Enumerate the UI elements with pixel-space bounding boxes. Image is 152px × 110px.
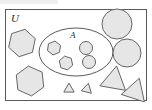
small-hexagon bbox=[48, 41, 61, 55]
scan-artifact bbox=[0, 0, 58, 4]
elements-inside-subset-a bbox=[48, 41, 96, 70]
large-triangle bbox=[100, 66, 126, 90]
small-circle bbox=[80, 42, 93, 55]
large-circle bbox=[113, 39, 141, 67]
large-hexagon bbox=[16, 66, 43, 96]
small-hexagon bbox=[59, 56, 72, 70]
tiny-triangle bbox=[81, 83, 91, 93]
elements-outside-subset-a bbox=[9, 9, 145, 102]
large-hexagon bbox=[9, 29, 36, 56]
set-diagram-figure: U A bbox=[0, 0, 152, 110]
subset-label: A bbox=[69, 30, 76, 40]
large-circle bbox=[102, 9, 132, 39]
small-circle bbox=[83, 56, 96, 69]
tiny-triangle bbox=[64, 83, 74, 92]
universe-label: U bbox=[11, 12, 20, 24]
diagram-canvas: U A bbox=[0, 0, 152, 110]
